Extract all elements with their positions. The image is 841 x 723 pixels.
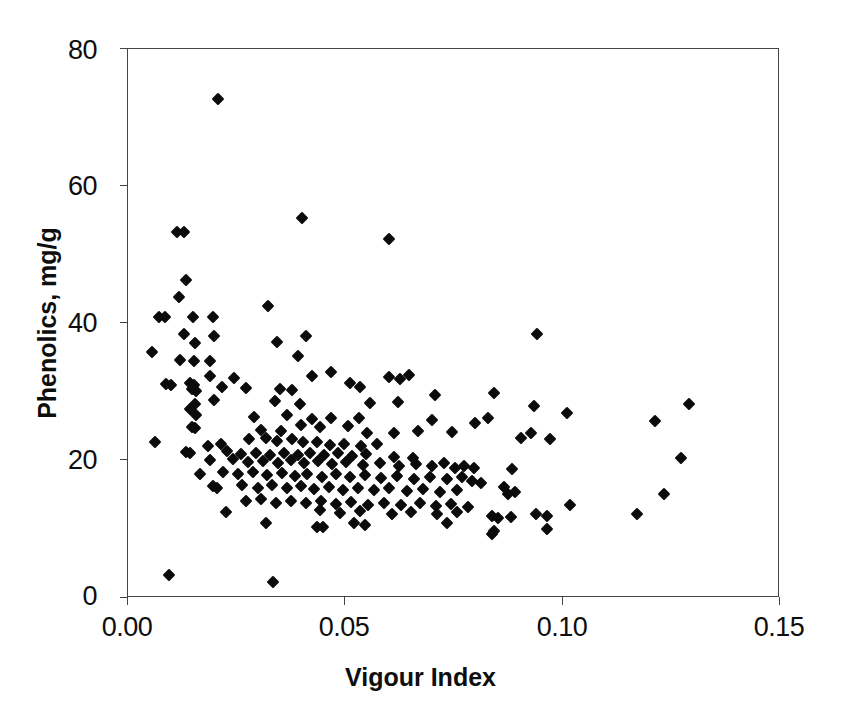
data-point [482,411,495,424]
data-point [386,507,399,520]
data-point [371,438,384,451]
data-point [408,472,421,485]
data-point [252,481,265,494]
data-point [260,516,273,529]
data-point [468,417,481,430]
data-point [295,419,308,432]
data-point [431,508,444,521]
data-point [179,274,192,287]
data-point [541,523,554,536]
data-point [428,388,441,401]
data-point [207,329,220,342]
data-point [564,499,577,512]
x-tick-mark-015 [779,597,780,605]
data-point [392,396,405,409]
data-point [273,382,286,395]
data-point [203,354,216,367]
x-tick-label-010: 0.10 [502,614,622,641]
plot-frame [127,48,779,597]
data-point [208,393,221,406]
data-point [445,426,458,439]
data-point [528,399,541,412]
data-point [286,432,299,445]
data-point [343,471,356,484]
data-point [441,517,454,530]
data-point [220,505,233,518]
data-point [216,381,229,394]
data-point [336,483,349,496]
data-point [426,460,439,473]
data-point [236,479,249,492]
data-point [299,329,312,342]
x-tick-mark-000 [127,597,128,605]
data-point [377,496,390,509]
data-point [266,576,279,589]
y-axis-title: Phenolics, mg/g [33,227,62,419]
data-point [308,483,321,496]
data-point [270,336,283,349]
data-point [412,424,425,437]
data-point [361,426,374,439]
data-point [561,406,574,419]
data-point [269,496,282,509]
data-point [310,435,323,448]
data-point [202,439,215,452]
data-point [373,456,386,469]
data-point [306,369,319,382]
data-point [284,494,297,507]
data-point [352,412,365,425]
data-point [248,410,261,423]
data-point [193,467,206,480]
data-point [207,311,220,324]
data-point [204,370,217,383]
data-point [228,371,241,384]
data-point [301,467,314,480]
data-point [414,497,427,510]
data-point [544,433,557,446]
data-point [341,420,354,433]
data-point [281,482,294,495]
data-point [388,426,401,439]
data-point [648,415,661,428]
data-point [529,507,542,520]
data-point [299,497,312,510]
data-point [322,480,335,493]
data-point [441,473,454,486]
data-point [255,493,268,506]
data-point [240,382,253,395]
data-point-layer [128,49,778,596]
data-point [146,345,159,358]
data-point [314,504,327,517]
data-point [189,336,202,349]
data-point [504,511,517,524]
data-point [425,414,438,427]
x-axis-title: Vigour Index [0,663,841,692]
data-point [240,495,253,508]
data-point [296,436,309,449]
data-point [345,496,358,509]
data-point [530,328,543,341]
data-point [325,411,338,424]
data-point [375,472,388,485]
data-point [295,211,308,224]
data-point [281,409,294,422]
data-point [315,470,328,483]
data-point [487,387,500,400]
data-point [149,435,162,448]
x-tick-label-015: 0.15 [719,614,839,641]
data-point [162,568,175,581]
data-point [631,507,644,520]
data-point [174,353,187,366]
data-point [382,482,395,495]
data-point [292,349,305,362]
data-point [173,290,186,303]
data-point [675,452,688,465]
data-point [400,485,413,498]
data-point [177,327,190,340]
data-point [295,480,308,493]
y-axis-title-container: Phenolics, mg/g [27,43,67,603]
data-point [269,395,282,408]
x-tick-mark-010 [562,597,563,605]
x-tick-label-000: 0.00 [67,614,187,641]
data-point [351,481,364,494]
